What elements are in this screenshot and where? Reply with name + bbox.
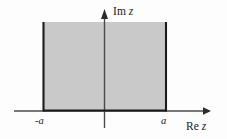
real-axis-label-variable: z [202,120,207,132]
imaginary-axis-label-variable: z [129,5,134,17]
tick-label-positive-a-variable: a [161,115,166,126]
tick-label-positive-a: a [161,116,166,127]
real-axis-label: Rez [186,121,206,133]
complex-plane-figure: Imz Rez -a a [0,0,227,139]
tick-label-negative-a-variable: a [39,115,44,126]
imaginary-axis-label: Imz [113,6,133,18]
tick-label-negative-a: -a [35,116,44,127]
real-axis-label-prefix: Re [186,120,199,132]
imaginary-axis-label-prefix: Im [113,5,126,17]
real-axis-arrowhead [203,107,211,115]
imaginary-axis-arrowhead [101,9,108,19]
